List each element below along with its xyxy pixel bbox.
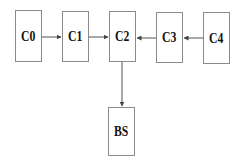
node-c0: C0	[15, 10, 42, 62]
node-label: C4	[209, 30, 223, 47]
node-c4: C4	[203, 12, 230, 64]
node-label: BS	[114, 123, 128, 140]
node-c3: C3	[156, 12, 183, 63]
node-label: C2	[115, 28, 129, 45]
node-label: C0	[21, 28, 35, 45]
node-c1: C1	[62, 11, 89, 62]
diagram-canvas: C0 C1 C2 C3 C4 BS	[0, 0, 239, 163]
node-label: C1	[68, 28, 82, 45]
node-bs: BS	[108, 107, 135, 156]
node-label: C3	[162, 29, 176, 46]
node-c2: C2	[109, 11, 136, 62]
